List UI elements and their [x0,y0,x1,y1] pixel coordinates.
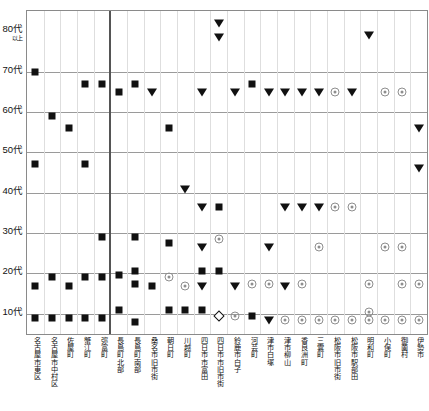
data-point-filled-square [115,306,122,313]
y-tick-main: 70代 [2,64,23,75]
x-tick-label: 鈴鹿市白子 [228,337,241,373]
y-tick-main: 80代 [2,23,23,34]
data-point-filled-down-triangle [230,88,240,96]
data-point-filled-down-triangle [197,203,207,211]
y-tick-sub: 以上 [2,35,23,41]
data-point-filled-square [132,280,139,287]
y-tick-label: 70代 [2,65,26,75]
data-point-open-target-circle [248,279,257,288]
data-point-filled-down-triangle [214,20,224,28]
data-point-filled-square [65,314,72,321]
data-point-filled-square [215,203,222,210]
data-point-open-target-circle [164,273,173,282]
data-point-filled-square [49,112,56,119]
data-point-filled-square [82,80,89,87]
data-point-open-target-circle [264,279,273,288]
data-point-filled-down-triangle [264,244,274,252]
gridline-vertical [160,11,161,334]
x-tick-label: 香良洲町 [295,337,308,366]
x-tick-label: 三雲町 [311,337,324,359]
x-tick-label: 津市白塚 [261,337,274,366]
x-tick-label: 長島町南部 [128,337,141,373]
gridline-vertical [327,11,328,334]
x-tick-label: 名古屋市中村区 [45,337,58,387]
x-tick-label: 長島町北部 [111,337,124,373]
data-point-open-target-circle [381,243,390,252]
x-tick-label: 名古屋市東区 [28,337,41,380]
y-tick-label: 80代以上 [2,24,26,41]
data-point-open-target-circle [398,315,407,324]
data-point-open-target-circle [214,235,223,244]
data-point-filled-square [249,80,256,87]
x-tick-label: 御薗村 [395,337,408,359]
data-point-open-target-circle [298,315,307,324]
data-point-filled-square [99,274,106,281]
gridline-vertical [310,11,311,334]
data-point-filled-down-triangle [197,282,207,290]
gridline-vertical [244,11,245,334]
data-point-filled-square [99,314,106,321]
x-axis: 名古屋市東区名古屋市中村区佐屋町蟹江町弥富町長島町北部長島町南部桑名市旧市街朝日… [26,337,428,411]
gridline-vertical [44,11,45,334]
data-point-filled-square [115,272,122,279]
data-point-filled-down-triangle [180,185,190,193]
data-point-filled-down-triangle [280,203,290,211]
data-point-open-target-circle [398,243,407,252]
x-tick-label: 川越町 [178,337,191,359]
data-point-open-target-circle [281,315,290,324]
data-point-open-target-circle [181,281,190,290]
data-point-open-target-circle [348,202,357,211]
y-tick-label: 20代 [2,266,26,276]
data-point-filled-square [32,282,39,289]
data-point-filled-square [115,88,122,95]
x-tick-label: 松阪市駅部田 [345,337,358,380]
data-point-filled-down-triangle [414,124,424,132]
data-point-open-target-circle [381,87,390,96]
gridline-vertical [177,11,178,334]
gridline-vertical [210,11,211,334]
data-point-open-target-circle [231,311,240,320]
gridline-vertical [227,11,228,334]
gridline-vertical [60,11,61,334]
plot-area [26,10,428,335]
data-point-filled-square [82,274,89,281]
y-axis: 80代以上70代60代50代40代30代20代10代 [0,0,26,411]
data-point-filled-down-triangle [230,282,240,290]
x-tick-label: 松阪市旧市街 [328,337,341,380]
data-point-open-target-circle [331,315,340,324]
data-point-filled-down-triangle [214,34,224,42]
gridline-vertical [194,11,195,334]
x-tick-label: 小俣町 [378,337,391,359]
data-point-filled-square [165,240,172,247]
data-point-open-target-circle [298,279,307,288]
x-tick-label: 朝日町 [161,337,174,359]
data-point-filled-square [65,282,72,289]
data-point-filled-square [215,268,222,275]
gridline-vertical [127,11,128,334]
data-point-filled-square [99,234,106,241]
data-point-filled-down-triangle [347,88,357,96]
region-separator [109,11,111,334]
data-point-filled-square [132,234,139,241]
data-point-filled-square [99,80,106,87]
y-tick-main: 60代 [2,104,23,115]
data-point-open-target-circle [348,315,357,324]
data-point-filled-square [32,314,39,321]
data-point-open-target-circle [414,315,423,324]
data-point-filled-square [49,274,56,281]
data-point-filled-square [165,125,172,132]
x-tick-label: 桑名市旧市街 [145,337,158,380]
gridline-vertical [260,11,261,334]
x-tick-label: 弥富町 [95,337,108,359]
data-point-filled-square [49,314,56,321]
x-tick-label: 佐屋町 [61,337,74,359]
data-point-open-target-circle [364,279,373,288]
data-point-filled-down-triangle [197,88,207,96]
gridline-vertical [77,11,78,334]
data-point-filled-square [132,268,139,275]
data-point-filled-down-triangle [297,88,307,96]
data-point-filled-down-triangle [364,32,374,40]
x-tick-label: 河芸町 [245,337,258,359]
data-point-filled-down-triangle [280,282,290,290]
data-point-open-target-circle [314,315,323,324]
